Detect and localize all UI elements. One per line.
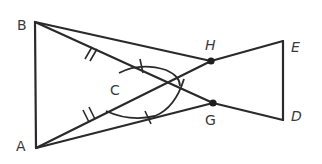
segment-BG xyxy=(35,22,213,103)
label-A: A xyxy=(16,138,26,154)
point-H-dot xyxy=(207,57,214,64)
segment-AH xyxy=(36,61,211,148)
segment-AG xyxy=(36,103,213,148)
label-G: G xyxy=(205,112,216,128)
label-H: H xyxy=(205,37,216,53)
segment-HE xyxy=(211,41,283,61)
label-E: E xyxy=(291,39,300,55)
label-C: C xyxy=(110,82,120,98)
segment-BH xyxy=(35,22,211,61)
geometry-diagram: B A C H G E D xyxy=(0,0,322,164)
segment-BA xyxy=(35,22,36,148)
label-B: B xyxy=(17,17,27,33)
point-G-dot xyxy=(209,99,216,106)
label-D: D xyxy=(291,108,302,124)
segment-GD xyxy=(213,103,283,120)
